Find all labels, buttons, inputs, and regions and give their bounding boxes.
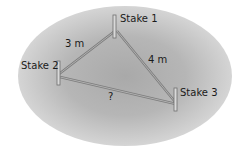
stake-1 bbox=[113, 15, 116, 38]
edge-label-4m: 4 m bbox=[148, 55, 167, 65]
stake-1-label: Stake 1 bbox=[120, 14, 158, 24]
stake-3 bbox=[174, 88, 177, 111]
stake-3-label: Stake 3 bbox=[180, 88, 218, 98]
edge-label-3m: 3 m bbox=[65, 39, 84, 49]
stake-2-label: Stake 2 bbox=[21, 61, 59, 71]
edge-label-unknown: ? bbox=[108, 92, 113, 102]
triangle-diagram bbox=[0, 0, 236, 147]
